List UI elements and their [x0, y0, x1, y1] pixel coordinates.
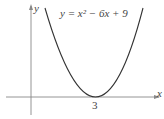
- equation-label: y = x² − 6x + 9: [60, 8, 128, 19]
- parabola-curve: [45, 8, 143, 97]
- x-axis-label: x: [157, 88, 162, 99]
- tick-label-3: 3: [92, 100, 98, 111]
- y-axis-arrow-icon: [29, 4, 33, 10]
- y-axis-label: y: [34, 3, 39, 14]
